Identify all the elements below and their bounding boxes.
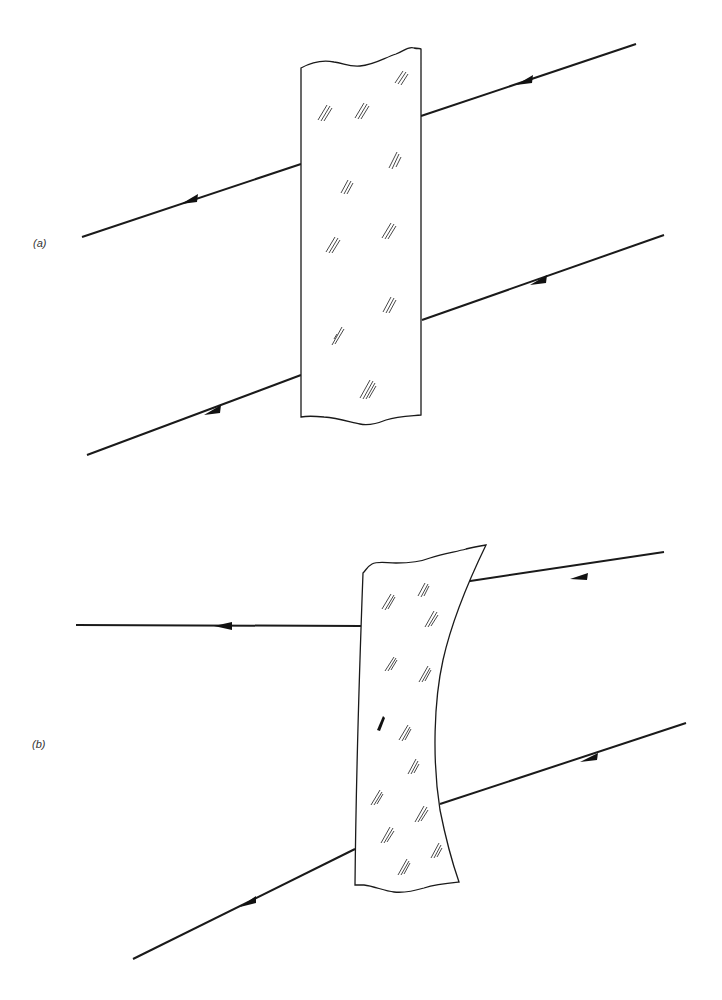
optics-figure: (a) (b)	[0, 0, 722, 1000]
panel-label-a: (a)	[33, 237, 46, 249]
glass-slab-b	[355, 545, 486, 892]
arrow-icon	[214, 622, 232, 630]
arrow-icon	[181, 194, 198, 204]
glass-slab-a	[301, 48, 421, 425]
panel-b	[76, 545, 686, 959]
panel-a	[82, 44, 664, 455]
arrow-icon	[570, 573, 588, 580]
panel-label-b: (b)	[32, 738, 45, 750]
arrow-icon	[530, 275, 547, 285]
